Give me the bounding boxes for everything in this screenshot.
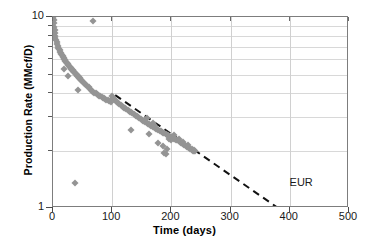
x-tick-top-0 bbox=[52, 17, 53, 21]
y-minor-tick-8 bbox=[48, 35, 52, 36]
y-minor-tick-9 bbox=[48, 25, 52, 26]
y-axis-title: Production Rate (MMcf/D) bbox=[22, 20, 34, 200]
y-minor-tick-2 bbox=[48, 150, 52, 151]
y-minor-tick-5 bbox=[48, 74, 52, 75]
x-tick-label-100: 100 bbox=[89, 210, 133, 222]
x-tick-label-400: 400 bbox=[267, 210, 311, 222]
decline-curve-chart: EUR 0100200300400500110 Time (days) Prod… bbox=[0, 0, 369, 246]
plot-area: EUR bbox=[52, 16, 348, 207]
x-tick-top-300 bbox=[230, 17, 231, 21]
x-tick-label-300: 300 bbox=[208, 210, 252, 222]
x-axis-title: Time (days) bbox=[0, 224, 369, 236]
y-minor-tick-7 bbox=[48, 46, 52, 47]
x-tick-top-400 bbox=[289, 17, 290, 21]
x-tick-label-200: 200 bbox=[148, 210, 192, 222]
x-tick-top-500 bbox=[348, 17, 349, 21]
x-tick-top-200 bbox=[170, 17, 171, 21]
y-tick-label-1: 1 bbox=[22, 200, 44, 212]
y-tick-10 bbox=[46, 16, 52, 17]
eur-annotation: EUR bbox=[290, 176, 313, 188]
y-minor-tick-4 bbox=[48, 92, 52, 93]
y-minor-tick-6 bbox=[48, 58, 52, 59]
y-minor-tick-3 bbox=[48, 116, 52, 117]
y-tick-1 bbox=[46, 207, 52, 208]
x-tick-top-100 bbox=[111, 17, 112, 21]
x-tick-label-500: 500 bbox=[326, 210, 369, 222]
